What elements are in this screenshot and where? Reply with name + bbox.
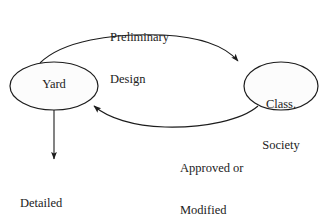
node-class-society-shape[interactable]	[244, 62, 318, 110]
edge-approved-modified-design-label: Approved or Modified Design	[180, 133, 244, 214]
edge-preliminary-design-label-line1: Preliminary	[110, 30, 169, 44]
node-yard-shape[interactable]	[10, 62, 98, 110]
edge-preliminary-design-label-line2: Design	[110, 72, 169, 86]
edge-detailed-design-label-line1: Detailed	[20, 196, 62, 210]
edge-approved-modified-design-label-line1: Approved or	[180, 161, 244, 175]
edge-detailed-design-label: Detailed Design	[20, 168, 62, 214]
diagram-canvas: Yard Class. Society Preliminary Design A…	[0, 0, 323, 214]
edge-preliminary-design-label: Preliminary Design	[110, 2, 169, 114]
edge-approved-modified-design-label-line2: Modified	[180, 203, 244, 214]
